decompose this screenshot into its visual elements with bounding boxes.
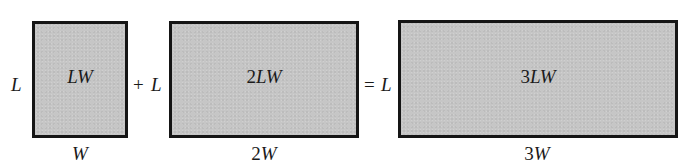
rect2-area-label: 2LW xyxy=(246,67,281,86)
rect3-width-label: 3W xyxy=(524,144,549,163)
rect2-area-var: LW xyxy=(256,66,282,87)
rect2-width-label: 2W xyxy=(251,144,276,163)
rect2-width-coeff: 2 xyxy=(251,143,261,164)
rect3-area-label: 3LW xyxy=(520,67,555,86)
rect2-width-var: W xyxy=(261,143,277,164)
rectangle-2lw: 2LW xyxy=(169,21,359,138)
rect1-area-var: LW xyxy=(67,66,93,87)
rect1-width-label: W xyxy=(72,144,88,163)
rect2-area-coeff: 2 xyxy=(246,66,256,87)
rect1-width-var: W xyxy=(72,143,88,164)
rect1-area-label: LW xyxy=(67,67,93,86)
equals-operator: = xyxy=(364,75,375,94)
rect3-area-coeff: 3 xyxy=(520,66,530,87)
rectangle-3lw: 3LW xyxy=(398,20,678,138)
rect3-width-var: W xyxy=(534,143,550,164)
rectangle-lw: LW xyxy=(32,21,128,138)
rect3-area-var: LW xyxy=(530,66,556,87)
rect3-length-label: L xyxy=(381,75,392,94)
rect1-length-label: L xyxy=(11,75,22,94)
rect2-length-label: L xyxy=(151,75,162,94)
plus-operator: + xyxy=(133,75,144,94)
rect3-width-coeff: 3 xyxy=(524,143,534,164)
